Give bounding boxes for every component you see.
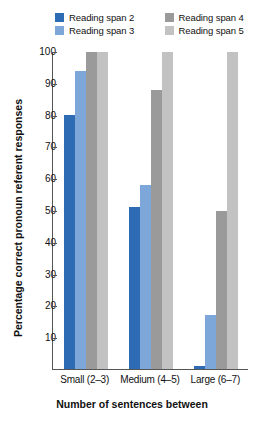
legend-swatch-reading-span-4 (165, 13, 174, 22)
legend-item-reading-span-4: Reading span 4 (165, 12, 261, 23)
bar-3-2 (205, 315, 216, 369)
plot-area: 100908070605040302010 (52, 52, 248, 370)
bar-2-4 (162, 52, 173, 369)
bar-1-3 (86, 52, 97, 369)
bar-3-3 (216, 211, 227, 370)
legend-label-reading-span-2: Reading span 2 (69, 12, 134, 23)
legend-item-reading-span-3: Reading span 3 (55, 25, 151, 36)
bar-3-1 (194, 366, 205, 369)
y-tick-mark (53, 211, 57, 212)
x-axis-line (52, 369, 248, 370)
y-axis-title: Percentage correct pronoun referent resp… (12, 63, 24, 373)
chart-legend: Reading span 2 Reading span 4 Reading sp… (55, 12, 260, 36)
y-tick-mark (53, 179, 57, 180)
y-tick-mark (53, 147, 57, 148)
bar-2-3 (151, 90, 162, 369)
bar-1-4 (97, 52, 108, 369)
bar-groups (53, 52, 248, 369)
y-tick-mark (53, 52, 57, 53)
bar-group-1 (53, 52, 118, 369)
y-tick-mark (53, 275, 57, 276)
legend-swatch-reading-span-2 (55, 13, 64, 22)
x-axis-label-3: Large (6–7) (183, 374, 248, 385)
y-tick-mark (53, 338, 57, 339)
x-axis-label-2: Medium (4–5) (117, 374, 182, 385)
bar-1-1 (64, 115, 75, 369)
bar-2-2 (140, 185, 151, 369)
y-tick-mark (53, 243, 57, 244)
bar-2-1 (129, 207, 140, 369)
y-tick-mark (53, 116, 57, 117)
bar-group-3 (183, 52, 248, 369)
bar-group-2 (118, 52, 183, 369)
bar-1-2 (75, 71, 86, 369)
x-axis-title: Number of sentences between (0, 398, 264, 410)
legend-item-reading-span-5: Reading span 5 (165, 25, 261, 36)
legend-label-reading-span-5: Reading span 5 (179, 25, 244, 36)
bar-3-4 (227, 52, 238, 369)
legend-item-reading-span-2: Reading span 2 (55, 12, 151, 23)
legend-swatch-reading-span-3 (55, 26, 64, 35)
legend-label-reading-span-3: Reading span 3 (69, 25, 134, 36)
legend-label-reading-span-4: Reading span 4 (179, 12, 244, 23)
x-axis-labels: Small (2–3)Medium (4–5)Large (6–7) (52, 374, 248, 385)
x-axis-label-1: Small (2–3) (52, 374, 117, 385)
y-tick-mark (53, 306, 57, 307)
y-tick-mark (53, 84, 57, 85)
legend-swatch-reading-span-5 (165, 26, 174, 35)
